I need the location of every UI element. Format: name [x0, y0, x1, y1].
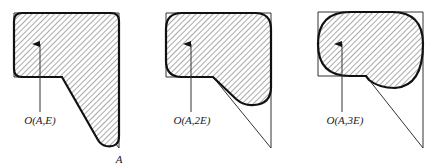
hatched-offset-region: [318, 12, 423, 88]
panel-label: O(A,2E): [174, 114, 211, 127]
panel-label: O(A,E): [24, 114, 56, 127]
panel-panel-2E: O(A,2E): [166, 13, 271, 148]
offset-diagram: O(A,E)O(A,2E)O(A,3E) A: [0, 0, 440, 167]
vertex-label-a: A: [115, 153, 123, 165]
hatched-offset-region: [166, 13, 271, 105]
panel-label: O(A,3E): [327, 114, 364, 127]
hatched-offset-region: [14, 13, 119, 146]
panel-panel-E: O(A,E): [14, 13, 119, 148]
panel-panel-3E: O(A,3E): [318, 12, 423, 148]
